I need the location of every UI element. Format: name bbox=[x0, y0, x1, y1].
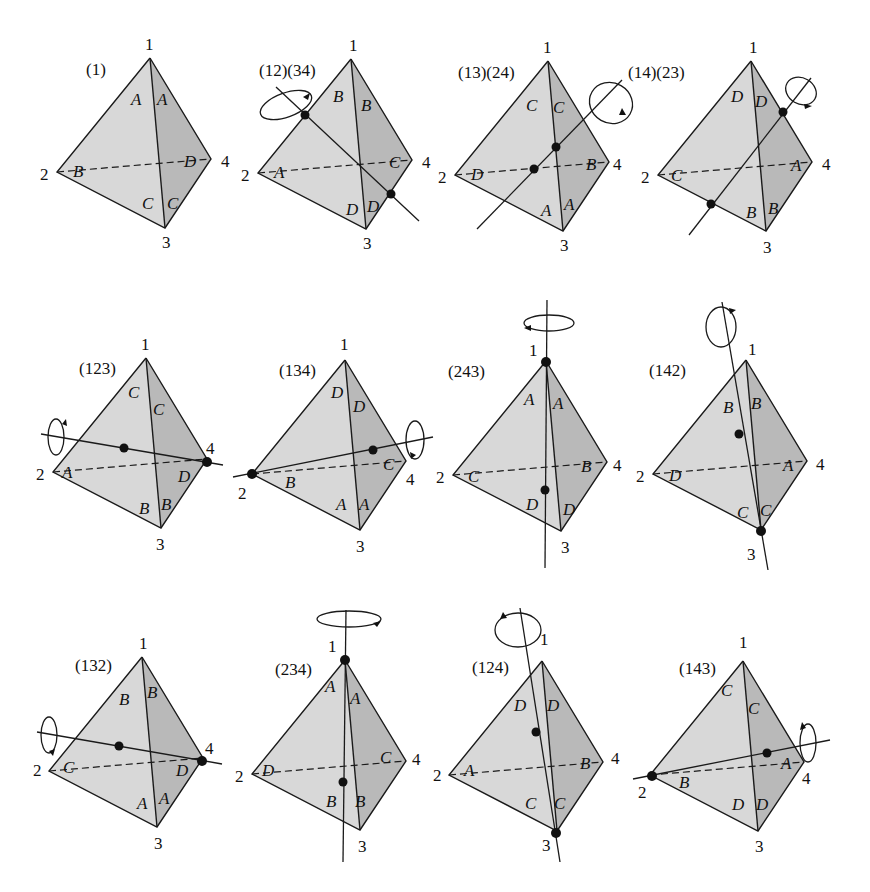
arrowhead-icon bbox=[619, 108, 626, 115]
panel-13-24: (13)(24) 1 2 3 4 C C D B A A bbox=[438, 38, 640, 255]
panel-234: (234) 1 2 3 4 A A D C B B bbox=[235, 610, 421, 862]
face-label-upper-left: C bbox=[526, 96, 538, 115]
vertex-3-label: 3 bbox=[747, 545, 756, 564]
vertex-1-label: 1 bbox=[340, 335, 349, 354]
vertex-1-label: 1 bbox=[748, 340, 757, 359]
face-label-back-left: A bbox=[273, 163, 285, 182]
vertex-2-label: 2 bbox=[238, 484, 247, 503]
face-label-lower-right: D bbox=[562, 500, 576, 519]
permutation-label: (142) bbox=[649, 361, 686, 380]
permutation-label: (1) bbox=[86, 60, 106, 79]
face-label-upper-left: B bbox=[333, 87, 344, 106]
face-label-lower-left: C bbox=[737, 503, 749, 522]
front-left-face bbox=[453, 361, 561, 531]
vertex-3-label: 3 bbox=[356, 537, 365, 556]
panel-132: (132) 1 2 3 4 B B C D A A bbox=[33, 634, 222, 853]
face-label-lower-right: C bbox=[554, 794, 566, 813]
face-label-lower-left: A bbox=[335, 495, 347, 514]
face-label-lower-left: B bbox=[746, 203, 757, 222]
axis-point-edge-34 bbox=[387, 190, 396, 199]
face-label-back-right: C bbox=[389, 153, 401, 172]
face-label-lower-right: D bbox=[755, 795, 769, 814]
panel-12-34: (12)(34) 1 2 3 4 B B A C D D bbox=[241, 36, 431, 253]
face-label-upper-right: D bbox=[546, 696, 560, 715]
face-label-upper-right: B bbox=[361, 96, 372, 115]
vertex-2-label: 2 bbox=[40, 165, 49, 184]
face-label-back-left: A bbox=[61, 463, 73, 482]
vertex-2-label: 2 bbox=[438, 168, 447, 187]
face-label-back-right: A bbox=[790, 156, 802, 175]
vertex-3-label: 3 bbox=[763, 238, 772, 257]
front-left-face bbox=[449, 661, 557, 831]
face-label-upper-left: D bbox=[513, 696, 527, 715]
face-label-lower-left: D bbox=[345, 200, 359, 219]
face-label-back-right: D bbox=[175, 761, 189, 780]
face-label-back-left: A bbox=[463, 761, 475, 780]
vertex-4-label: 4 bbox=[412, 750, 421, 769]
permutation-label: (123) bbox=[79, 359, 116, 378]
face-label-upper-left: D bbox=[330, 383, 344, 402]
face-label-back-right: D bbox=[177, 467, 191, 486]
vertex-4-label: 4 bbox=[221, 152, 230, 171]
face-label-lower-left: C bbox=[142, 194, 154, 213]
axis-point-face-center bbox=[541, 486, 550, 495]
face-label-upper-right: C bbox=[153, 400, 165, 419]
axis-point-edge-24 bbox=[530, 165, 539, 174]
face-label-upper-left: C bbox=[128, 383, 140, 402]
face-label-back-right: B bbox=[581, 457, 592, 476]
axis-point-face-center bbox=[532, 728, 541, 737]
permutation-label: (132) bbox=[75, 656, 112, 675]
rotation-arrow-icon bbox=[524, 315, 574, 331]
face-label-back-left: D bbox=[261, 761, 275, 780]
axis-point-face-center bbox=[763, 749, 772, 758]
permutation-label: (13)(24) bbox=[458, 63, 515, 82]
face-label-upper-right: A bbox=[156, 90, 168, 109]
vertex-4-label: 4 bbox=[611, 749, 620, 768]
face-label-upper-left: C bbox=[721, 681, 733, 700]
panel-identity: (1) 1 2 3 4 A A B D C C bbox=[40, 35, 230, 252]
axis-point-vertex-3 bbox=[551, 828, 561, 838]
face-label-upper-left: D bbox=[730, 87, 744, 106]
face-label-upper-right: C bbox=[553, 98, 565, 117]
vertex-4-label: 4 bbox=[205, 739, 214, 758]
permutation-label: (243) bbox=[448, 362, 485, 381]
vertex-4-label: 4 bbox=[406, 470, 415, 489]
face-label-back-right: D bbox=[183, 152, 197, 171]
vertex-3-label: 3 bbox=[363, 234, 372, 253]
face-label-back-left: D bbox=[668, 466, 682, 485]
face-label-lower-right: B bbox=[161, 495, 172, 514]
axis-point-vertex-1 bbox=[340, 655, 350, 665]
axis-point-face-center bbox=[339, 778, 348, 787]
vertex-4-label: 4 bbox=[802, 769, 811, 788]
face-label-upper-left: B bbox=[723, 398, 734, 417]
vertex-1-label: 1 bbox=[139, 634, 148, 653]
permutation-label: (14)(23) bbox=[628, 63, 685, 82]
face-label-lower-right: B bbox=[355, 792, 366, 811]
permutation-label: (234) bbox=[275, 660, 312, 679]
face-label-upper-right: A bbox=[349, 689, 361, 708]
face-label-lower-right: B bbox=[768, 199, 779, 218]
face-label-back-left: D bbox=[470, 165, 484, 184]
face-label-lower-right: C bbox=[167, 194, 179, 213]
arrowhead-icon bbox=[62, 419, 67, 426]
permutation-label: (124) bbox=[472, 658, 509, 677]
axis-point-edge-23 bbox=[707, 200, 716, 209]
panel-142: (142) 1 2 3 4 B B D A C C bbox=[636, 302, 825, 570]
vertex-1-label: 1 bbox=[540, 630, 549, 649]
rotation-arrow-icon bbox=[317, 611, 381, 627]
tetrahedron-symmetry-figure: (1) 1 2 3 4 A A B D C C (12)(34) 1 2 3 4… bbox=[0, 0, 870, 892]
vertex-3-label: 3 bbox=[542, 836, 551, 855]
vertex-2-label: 2 bbox=[636, 467, 645, 486]
face-label-upper-right: C bbox=[748, 699, 760, 718]
vertex-2-label: 2 bbox=[638, 783, 647, 802]
vertex-1-label: 1 bbox=[529, 341, 538, 360]
face-label-upper-left: A bbox=[130, 90, 142, 109]
vertex-1-label: 1 bbox=[739, 633, 748, 652]
arrowhead-icon bbox=[303, 93, 310, 100]
vertex-3-label: 3 bbox=[560, 236, 569, 255]
vertex-4-label: 4 bbox=[816, 455, 825, 474]
face-label-upper-right: B bbox=[147, 683, 158, 702]
panel-14-23: (14)(23) 1 2 3 4 D D C A B B bbox=[628, 38, 831, 257]
panel-123: (123) 1 2 3 4 C C A D B B bbox=[36, 335, 223, 554]
axis-point-edge-12 bbox=[301, 111, 310, 120]
